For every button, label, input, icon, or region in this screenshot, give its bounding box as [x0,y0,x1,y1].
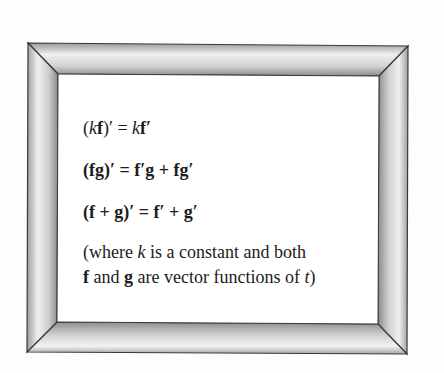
formula-scalar-multiple-rule: (kf)′ = kf′ [83,118,151,138]
frame-top-bevel [28,43,408,76]
text-run: and [89,267,124,287]
picture-frame [0,0,444,373]
note-line-1: (where k is a constant and both [83,240,306,265]
note-line-2: f and g are vector functions of t) [83,265,315,290]
frame-bottom-bevel [27,322,407,354]
frame-left-bevel [27,43,58,352]
formula-sum-rule: (f + g)′ = f′ + g′ [83,202,198,222]
text-run: ) [309,267,315,287]
bold-symbol: f′ [140,118,151,138]
framed-formula-card: (kf)′ = kf′ (fg)′ = f′g + fg′ (f + g)′ =… [0,0,444,373]
text-run: are vector functions of [133,267,304,287]
bold-symbol: (f + g)′ = f′ + g′ [83,202,198,222]
text-run: (where [83,242,137,262]
bold-symbol: (fg)′ = f′g + fg′ [83,160,194,180]
text-run: is a constant and both [145,242,305,262]
italic-symbol: k [132,118,140,138]
text-run: )′ = [103,118,132,138]
frame-right-bevel [378,46,408,354]
bold-symbol: g [124,267,133,287]
italic-symbol: k [89,118,97,138]
formula-product-rule: (fg)′ = f′g + fg′ [83,160,194,180]
